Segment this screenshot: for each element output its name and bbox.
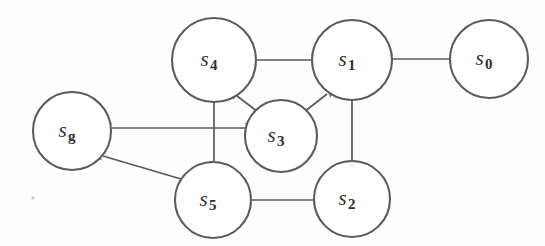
node-s1[interactable]: s1 <box>312 20 392 100</box>
node-s0[interactable]: s0 <box>450 20 528 98</box>
edge-sg-s5 <box>103 156 181 179</box>
node-s3[interactable]: s3 <box>245 100 317 172</box>
node-s4[interactable]: s4 <box>172 18 256 102</box>
edge-s4-s3 <box>237 96 258 112</box>
state-diagram-canvas: s4s1s0sgs3s5s2 <box>0 0 545 246</box>
edge-s3-s1 <box>304 94 327 112</box>
node-sg[interactable]: sg <box>33 92 111 170</box>
node-s2[interactable]: s2 <box>314 161 390 237</box>
node-s5[interactable]: s5 <box>175 162 251 238</box>
state-transition-graph: s4s1s0sgs3s5s2 <box>0 0 545 246</box>
scan-speck <box>31 196 34 199</box>
nodes-layer: s4s1s0sgs3s5s2 <box>33 18 528 238</box>
